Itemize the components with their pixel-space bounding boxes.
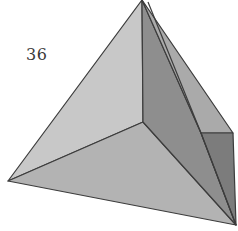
pyramid-figure [0, 0, 238, 231]
